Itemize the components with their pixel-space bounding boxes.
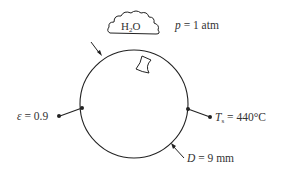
diameter-value: = 9 mm (198, 152, 234, 164)
temperature-dot-surface (186, 107, 190, 111)
diagram-canvas (0, 0, 284, 171)
emissivity-symbol: ε (17, 110, 22, 122)
temperature-value: = 440°C (227, 111, 266, 123)
pressure-value: = 1 atm (184, 19, 219, 31)
pressure-label: p = 1 atm (175, 20, 219, 32)
emissivity-dot-surface (80, 106, 84, 110)
fluid-label-h: H (121, 20, 129, 32)
temperature-dot-outer (208, 115, 212, 119)
fluid-label: H2O (121, 21, 140, 34)
emissivity-label: ε = 0.9 (17, 111, 48, 123)
pressure-symbol: p (175, 19, 181, 31)
sphere (80, 50, 188, 158)
temperature-label: Ts = 440°C (215, 112, 266, 125)
diameter-symbol: D (187, 152, 195, 164)
emissivity-value: = 0.9 (24, 110, 48, 122)
surface-element (136, 56, 151, 73)
temperature-subscript: s (221, 117, 224, 125)
emissivity-dot-outer (57, 114, 61, 118)
fluid-label-o: O (132, 20, 140, 32)
emissivity-leader (60, 108, 82, 116)
temperature-leader (188, 109, 210, 117)
diameter-arrow-line (173, 146, 184, 158)
diameter-label: D = 9 mm (187, 153, 234, 165)
